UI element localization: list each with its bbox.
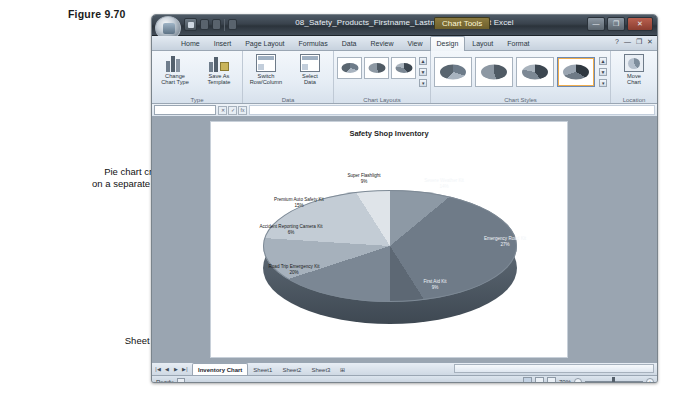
- sheet-tab-inventory-chart[interactable]: Inventory Chart: [192, 363, 248, 375]
- status-right-controls: 70% − +: [523, 377, 654, 383]
- move-chart-icon: [624, 54, 644, 72]
- chart-layout-option-1[interactable]: [337, 57, 362, 79]
- prev-sheet-icon[interactable]: ◀: [163, 366, 171, 372]
- tab-home[interactable]: Home: [174, 36, 207, 51]
- tab-insert[interactable]: Insert: [207, 36, 239, 51]
- data-label-severe-weather-kit: Severe Weather Kit 14%: [409, 178, 479, 189]
- window-controls: — ❐ ✕: [587, 17, 653, 31]
- sheet-tab-bar: |◀ ◀ ▶ ▶| Inventory Chart Sheet1 Sheet2 …: [152, 362, 657, 375]
- tab-layout[interactable]: Layout: [465, 36, 500, 51]
- data-label-pct: 20%: [289, 270, 298, 275]
- chart-styles-scroll[interactable]: ▲ ▼ ▾: [599, 57, 607, 87]
- more-styles-icon[interactable]: ▾: [599, 79, 607, 87]
- last-sheet-icon[interactable]: ▶|: [181, 366, 189, 372]
- switch-row-column-icon: [256, 54, 276, 72]
- chart-layout-option-2[interactable]: [364, 57, 389, 79]
- data-label-name: Emergency Road Kit: [484, 236, 526, 241]
- tab-page-layout[interactable]: Page Layout: [238, 36, 291, 51]
- data-label-name: Severe Weather Kit: [424, 178, 464, 183]
- group-label-chart-layouts: Chart Layouts: [334, 97, 430, 103]
- formula-input[interactable]: [249, 105, 655, 115]
- page-break-preview-icon[interactable]: [547, 377, 556, 383]
- sheet-nav-buttons: |◀ ◀ ▶ ▶|: [154, 366, 189, 372]
- status-bar: Ready 70% − +: [152, 375, 657, 383]
- cancel-icon[interactable]: ✕: [218, 106, 227, 115]
- chart-style-option-1[interactable]: [434, 57, 472, 87]
- status-text: Ready: [156, 379, 173, 383]
- data-label-pct: 15%: [294, 203, 303, 208]
- data-label-pct: 14%: [439, 184, 448, 189]
- chart-style-option-3[interactable]: [516, 57, 554, 87]
- insert-function-icon[interactable]: fx: [238, 106, 247, 115]
- save-as-template-button[interactable]: Save As Template: [199, 54, 239, 85]
- ribbon-group-chart-styles: ▲ ▼ ▾ Chart Styles: [431, 51, 611, 103]
- insert-worksheet-icon[interactable]: ⊞: [335, 364, 350, 375]
- figure-label: Figure 9.70: [68, 8, 126, 20]
- close-button[interactable]: ✕: [627, 17, 653, 31]
- minimize-button[interactable]: —: [587, 17, 605, 31]
- sheet-tabs: Inventory Chart Sheet1 Sheet2 Sheet3 ⊞: [192, 363, 350, 375]
- chart-style-option-4-selected[interactable]: [557, 57, 595, 87]
- ribbon-group-data: Switch Row/Column Select Data Data: [243, 51, 334, 103]
- data-label-name: First Aid Kit: [423, 279, 446, 284]
- restore-button[interactable]: ❐: [607, 17, 625, 31]
- sheet-tab-sheet1[interactable]: Sheet1: [248, 364, 277, 375]
- tab-format[interactable]: Format: [500, 36, 536, 51]
- sheet-tab-sheet3[interactable]: Sheet3: [306, 364, 335, 375]
- contextual-tab-chart-tools: Chart Tools: [434, 17, 490, 29]
- chart-layout-option-3[interactable]: [391, 57, 416, 79]
- change-chart-type-button[interactable]: Change Chart Type: [155, 54, 195, 85]
- pie-chart[interactable]: Super Flashlight 9% Severe Weather Kit 1…: [233, 160, 547, 335]
- tab-formulas[interactable]: Formulas: [292, 36, 335, 51]
- minimize-ribbon-icon[interactable]: —: [624, 38, 631, 46]
- scroll-up-icon[interactable]: ▲: [599, 57, 607, 65]
- sheet-tab-sheet2[interactable]: Sheet2: [277, 364, 306, 375]
- close-workbook-icon[interactable]: ✕: [647, 38, 653, 46]
- tab-view[interactable]: View: [400, 36, 429, 51]
- tab-data[interactable]: Data: [335, 36, 364, 51]
- more-layouts-icon[interactable]: ▾: [419, 79, 427, 87]
- tab-design[interactable]: Design: [430, 36, 466, 51]
- next-sheet-icon[interactable]: ▶: [172, 366, 180, 372]
- zoom-level[interactable]: 70%: [559, 379, 571, 384]
- zoom-in-icon[interactable]: +: [646, 378, 654, 384]
- data-label-pct: 27%: [500, 242, 509, 247]
- scroll-down-icon[interactable]: ▼: [599, 68, 607, 76]
- first-sheet-icon[interactable]: |◀: [154, 366, 162, 372]
- data-label-premium-auto-safety-kit: Premium Auto Safety Kit 15%: [253, 197, 345, 208]
- pie-style-icon: [440, 65, 466, 80]
- ribbon-tabs: Home Insert Page Layout Formulas Data Re…: [174, 36, 537, 51]
- chart-title[interactable]: Safety Shop Inventory: [211, 129, 567, 138]
- horizontal-scrollbar[interactable]: [454, 364, 654, 373]
- window-title: 08_Safety_Products_Firstname_Lastname - …: [152, 18, 657, 27]
- data-label-name: Road Trip Emergency Kit: [268, 264, 319, 269]
- data-label-road-trip-emergency-kit: Road Trip Emergency Kit 20%: [251, 264, 337, 275]
- zoom-out-icon[interactable]: −: [574, 378, 582, 384]
- enter-icon[interactable]: ✓: [228, 106, 237, 115]
- help-icon[interactable]: ?: [615, 38, 619, 46]
- zoom-slider[interactable]: [585, 377, 643, 383]
- restore-workbook-icon[interactable]: ❐: [636, 38, 642, 46]
- data-label-pct: 6%: [288, 230, 295, 235]
- change-chart-type-icon: [165, 54, 185, 72]
- chart-style-option-2[interactable]: [475, 57, 513, 87]
- data-label-first-aid-kit: First Aid Kit 9%: [405, 279, 465, 290]
- normal-view-icon[interactable]: [523, 377, 532, 383]
- page-layout-view-icon[interactable]: [535, 377, 544, 383]
- data-label-emergency-road-kit: Emergency Road Kit 27%: [467, 236, 543, 247]
- zoom-slider-handle[interactable]: [612, 377, 615, 383]
- tab-review[interactable]: Review: [364, 36, 401, 51]
- select-data-icon: [300, 54, 320, 72]
- name-box[interactable]: [154, 105, 216, 115]
- excel-window: 08_Safety_Products_Firstname_Lastname - …: [151, 14, 658, 383]
- scroll-up-icon[interactable]: ▲: [419, 57, 427, 65]
- data-label-name: Premium Auto Safety Kit: [274, 197, 324, 202]
- chart-layouts-scroll[interactable]: ▲ ▼ ▾: [419, 57, 427, 87]
- chart-canvas[interactable]: Safety Shop Inventory Super Flashlight 9…: [210, 121, 568, 358]
- chart-sheet-area: Safety Shop Inventory Super Flashlight 9…: [152, 117, 657, 362]
- select-data-button[interactable]: Select Data: [290, 54, 330, 85]
- scroll-down-icon[interactable]: ▼: [419, 68, 427, 76]
- move-chart-button[interactable]: Move Chart: [614, 54, 654, 85]
- save-as-template-icon: [209, 54, 229, 72]
- switch-row-column-button[interactable]: Switch Row/Column: [246, 54, 286, 85]
